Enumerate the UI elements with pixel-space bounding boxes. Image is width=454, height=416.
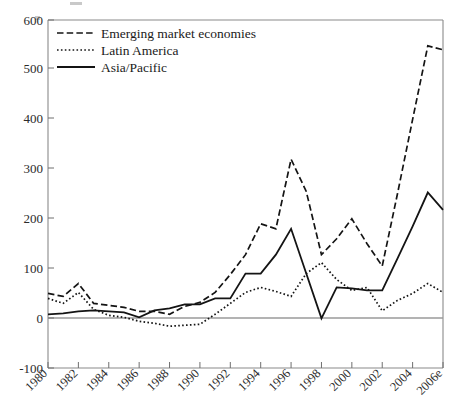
y-tick-label: 400 xyxy=(24,111,44,126)
y-tick-label: 500 xyxy=(24,61,44,76)
legend-label-emerging-market-economies: Emerging market economies xyxy=(101,26,256,41)
y-tick-label: 300 xyxy=(24,161,44,176)
y-tick-label: 0 xyxy=(37,311,44,326)
y-tick-label: 100 xyxy=(24,261,44,276)
chart-background xyxy=(0,0,454,416)
chart-container: -100 0 100 200 300 400 500 600 198019821… xyxy=(0,0,454,416)
y-tick-label: 200 xyxy=(24,211,44,226)
scan-artifact xyxy=(70,2,82,5)
line-chart: -100 0 100 200 300 400 500 600 198019821… xyxy=(0,0,454,416)
legend-label-asia-pacific: Asia/Pacific xyxy=(101,60,167,75)
y-tick-label: 600 xyxy=(24,13,44,28)
legend-label-latin-america: Latin America xyxy=(101,43,179,58)
